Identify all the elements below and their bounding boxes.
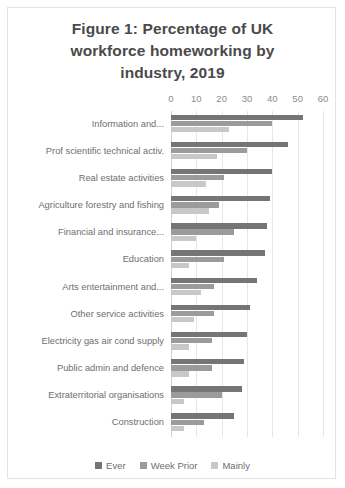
bar-week bbox=[171, 121, 272, 126]
category-label: Information and... bbox=[4, 119, 164, 129]
legend-swatch-icon bbox=[140, 462, 147, 469]
bar-week bbox=[171, 148, 247, 153]
bar-mainly bbox=[171, 317, 194, 322]
bar-group bbox=[171, 386, 323, 408]
x-axis-tick-30: 30 bbox=[242, 93, 253, 104]
bar-week bbox=[171, 229, 234, 234]
x-axis-tick-50: 50 bbox=[292, 93, 303, 104]
bar-mainly bbox=[171, 371, 189, 376]
category-label: Education bbox=[4, 254, 164, 264]
category-label: Construction bbox=[4, 417, 164, 427]
plot-area bbox=[171, 111, 323, 437]
x-axis-tick-60: 60 bbox=[318, 93, 329, 104]
bar-group bbox=[171, 305, 323, 327]
bar-ever bbox=[171, 359, 244, 364]
category-label: Public admin and defence bbox=[4, 363, 164, 373]
category-label: Arts entertainment and... bbox=[4, 282, 164, 292]
legend-label: Ever bbox=[106, 460, 126, 471]
bar-ever bbox=[171, 278, 257, 283]
bar-mainly bbox=[171, 181, 206, 186]
bar-week bbox=[171, 365, 212, 370]
bar-group bbox=[171, 196, 323, 218]
bar-week bbox=[171, 175, 224, 180]
x-axis-tick-40: 40 bbox=[267, 93, 278, 104]
bar-ever bbox=[171, 386, 242, 391]
bar-ever bbox=[171, 305, 250, 310]
bar-week bbox=[171, 202, 219, 207]
bar-mainly bbox=[171, 208, 209, 213]
bar-group bbox=[171, 278, 323, 300]
bar-group bbox=[171, 250, 323, 272]
bar-group bbox=[171, 142, 323, 164]
chart-legend: EverWeek PriorMainly bbox=[8, 460, 337, 471]
legend-label: Week Prior bbox=[151, 460, 198, 471]
category-label: Agriculture forestry and fishing bbox=[4, 200, 164, 210]
bar-ever bbox=[171, 115, 303, 120]
chart-plot: 0102030405060 Information and...Prof sci… bbox=[8, 8, 337, 480]
bar-week bbox=[171, 392, 222, 397]
y-axis-category-labels: Information and...Prof scientific techni… bbox=[8, 111, 171, 437]
bar-week bbox=[171, 338, 212, 343]
bar-mainly bbox=[171, 426, 184, 431]
category-label: Prof scientific technical activ. bbox=[4, 146, 164, 156]
figure-card: Figure 1: Percentage of UK workforce hom… bbox=[7, 7, 336, 479]
legend-label: Mainly bbox=[222, 460, 249, 471]
bar-group bbox=[171, 332, 323, 354]
bar-ever bbox=[171, 196, 270, 201]
bar-mainly bbox=[171, 236, 196, 241]
category-label: Real estate activities bbox=[4, 173, 164, 183]
bar-mainly bbox=[171, 263, 189, 268]
category-label: Extraterritorial organisations bbox=[4, 390, 164, 400]
bar-mainly bbox=[171, 344, 189, 349]
bar-ever bbox=[171, 250, 265, 255]
legend-item[interactable]: Week Prior bbox=[140, 460, 198, 471]
bar-group bbox=[171, 223, 323, 245]
bar-group bbox=[171, 413, 323, 435]
bar-mainly bbox=[171, 290, 201, 295]
gridline-60 bbox=[323, 111, 324, 437]
x-axis-tick-labels: 0102030405060 bbox=[163, 93, 337, 107]
bar-ever bbox=[171, 332, 247, 337]
x-axis-tick-20: 20 bbox=[216, 93, 227, 104]
bar-week bbox=[171, 284, 214, 289]
bar-ever bbox=[171, 169, 272, 174]
bar-group bbox=[171, 169, 323, 191]
bar-ever bbox=[171, 142, 288, 147]
legend-item[interactable]: Mainly bbox=[211, 460, 249, 471]
category-label: Financial and insurance... bbox=[4, 227, 164, 237]
bar-week bbox=[171, 420, 204, 425]
legend-swatch-icon bbox=[95, 462, 102, 469]
bar-week bbox=[171, 311, 214, 316]
category-label: Other service activities bbox=[4, 309, 164, 319]
bar-group bbox=[171, 359, 323, 381]
bar-mainly bbox=[171, 127, 229, 132]
bar-ever bbox=[171, 413, 234, 418]
bar-week bbox=[171, 257, 224, 262]
x-axis-tick-0: 0 bbox=[168, 93, 173, 104]
bar-group bbox=[171, 115, 323, 137]
bar-mainly bbox=[171, 399, 184, 404]
x-axis-tick-10: 10 bbox=[191, 93, 202, 104]
category-label: Electricity gas air cond supply bbox=[4, 336, 164, 346]
bar-mainly bbox=[171, 154, 217, 159]
legend-swatch-icon bbox=[211, 462, 218, 469]
legend-item[interactable]: Ever bbox=[95, 460, 126, 471]
bar-ever bbox=[171, 223, 267, 228]
